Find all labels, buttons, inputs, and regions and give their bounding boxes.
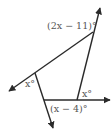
label-right-angle: x° — [82, 88, 92, 99]
label-left-angle: x° — [25, 78, 35, 89]
label-top-angle: (2x − 11)° — [47, 20, 97, 31]
geometry-diagram: (2x − 11)° x° x° (x − 4)° — [0, 0, 112, 130]
label-bottom-angle: (x − 4)° — [50, 103, 88, 114]
line-top-left-ray — [9, 32, 93, 91]
